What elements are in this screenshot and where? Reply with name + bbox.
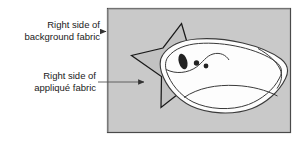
callout-applique-fabric-line1: Right side of xyxy=(43,70,96,81)
callout-applique-fabric-line2: appliqué fabric xyxy=(34,82,96,93)
fish-dot-2 xyxy=(204,64,209,69)
callout-background-fabric-line2: background fabric xyxy=(24,31,100,42)
fish-dot-1 xyxy=(194,60,199,65)
callout-background-fabric-line1: Right side of xyxy=(47,19,100,30)
diagram-canvas: Right side of background fabric Right si… xyxy=(0,0,298,142)
applique-diagram: Right side of background fabric Right si… xyxy=(0,0,298,142)
callout-background-fabric: Right side of background fabric xyxy=(24,19,106,42)
